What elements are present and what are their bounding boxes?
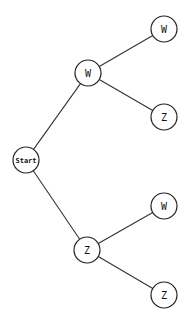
node-label: Z (84, 245, 90, 256)
edge-start-z1 (33, 171, 79, 239)
node-z1: Z (74, 237, 100, 263)
node-label: W (161, 24, 168, 35)
node-label: W (161, 201, 168, 212)
edge-w1-w1z (99, 80, 152, 111)
nodes-group: StartWZWZWZ (13, 16, 177, 308)
edge-w1-w1w (99, 36, 152, 67)
node-w1z: Z (151, 104, 177, 130)
node-w1: W (75, 60, 101, 86)
node-start: Start (13, 147, 39, 173)
node-label: Z (161, 290, 167, 301)
node-w1w: W (151, 16, 177, 42)
node-z1z: Z (151, 282, 177, 308)
node-z1w: W (151, 193, 177, 219)
edge-z1-z1w (98, 212, 152, 243)
node-label: Start (15, 157, 36, 165)
node-label: W (85, 68, 92, 79)
node-label: Z (161, 112, 167, 123)
edge-z1-z1z (98, 257, 153, 289)
edge-start-w1 (34, 84, 81, 150)
tree-diagram: StartWZWZWZ (0, 0, 191, 326)
